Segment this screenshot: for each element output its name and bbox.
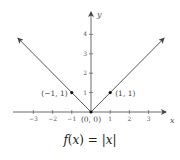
x-tick-label: 2 [127,115,131,122]
x-tick-label: −3 [29,115,38,122]
graph-caption: f(x) = |x| [0,133,180,147]
y-axis-label: y [96,10,102,19]
point-marker [89,110,92,113]
point-marker [109,91,112,94]
y-tick-label: 3 [83,50,87,57]
axes: xy−3−2−11231234 [13,10,175,125]
point-label: (−1, 1) [41,89,68,98]
x-tick-label: −2 [48,115,57,122]
x-axis-label: x [170,116,175,125]
y-tick-label: 4 [83,30,87,37]
point-marker [70,91,73,94]
right-branch [91,38,164,112]
point-label: (0, 0) [81,115,101,124]
x-tick-label: 3 [147,115,151,122]
point-label: (1, 1) [115,89,135,98]
left-branch [18,38,91,112]
x-tick-label: 1 [108,115,112,122]
y-tick-label: 2 [83,69,87,76]
x-tick-label: −1 [67,115,76,122]
y-tick-label: 1 [83,89,87,96]
